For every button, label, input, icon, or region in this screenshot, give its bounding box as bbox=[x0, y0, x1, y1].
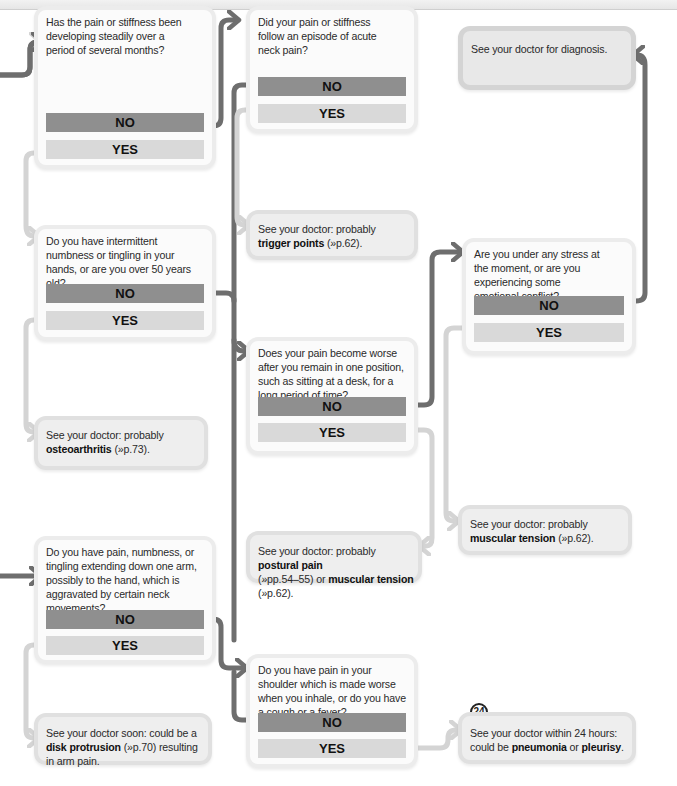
diagnosis-term: disk protrusion bbox=[46, 741, 121, 753]
question-text: Do you have pain, numbness, or tingling … bbox=[46, 545, 202, 615]
outcome-box-osteoarthritis: See your doctor: probably osteoarthritis… bbox=[34, 416, 208, 470]
page-reference[interactable]: (»p.62). bbox=[327, 237, 362, 249]
diagnosis-term: osteoarthritis bbox=[46, 443, 112, 455]
no-button[interactable]: NO bbox=[258, 397, 406, 416]
no-button[interactable]: NO bbox=[258, 713, 406, 732]
diagnosis-term: postural pain bbox=[258, 559, 323, 571]
outcome-box-diagnosis: See your doctor for diagnosis. bbox=[458, 26, 636, 90]
yes-button[interactable]: YES bbox=[258, 739, 406, 758]
question-text: Has the pain or stiffness been developin… bbox=[46, 15, 182, 57]
diagnosis-term: pneumonia bbox=[512, 741, 567, 753]
diagnosis-term: pleurisy bbox=[582, 741, 621, 753]
outcome-text: See your doctor: probably muscular tensi… bbox=[470, 517, 620, 545]
page-reference[interactable]: (»p.73). bbox=[114, 443, 149, 455]
question-text: Are you under any stress at the moment, … bbox=[474, 247, 602, 303]
outcome-joiner: or bbox=[570, 741, 579, 753]
diagnosis-term: muscular tension bbox=[470, 532, 555, 544]
outcome-box-postural-pain: See your doctor: probably postural pain … bbox=[246, 531, 422, 583]
diagnosis-term: trigger points bbox=[258, 237, 324, 249]
outcome-text: See your doctor: probably osteoarthritis… bbox=[46, 428, 196, 456]
question-text: Did your pain or stiffness follow an epi… bbox=[258, 15, 384, 57]
outcome-text: See your doctor for diagnosis. bbox=[471, 42, 623, 56]
no-button[interactable]: NO bbox=[258, 77, 406, 96]
yes-button[interactable]: YES bbox=[46, 311, 204, 330]
outcome-box-disk-protrusion: See your doctor soon: could be a disk pr… bbox=[34, 713, 212, 765]
page-reference[interactable]: (»p.62). bbox=[558, 532, 593, 544]
yes-button[interactable]: YES bbox=[474, 323, 624, 342]
outcome-text: See your doctor: probably trigger points… bbox=[258, 222, 406, 250]
yes-button[interactable]: YES bbox=[46, 140, 204, 159]
yes-button[interactable]: YES bbox=[258, 104, 406, 123]
question-text: Do you have pain in your shoulder which … bbox=[258, 663, 408, 719]
no-button[interactable]: NO bbox=[474, 296, 624, 315]
outcome-box-muscular-tension: See your doctor: probably muscular tensi… bbox=[458, 505, 632, 555]
question-box-q4: Are you under any stress at the moment, … bbox=[462, 238, 636, 355]
page-reference[interactable]: (»p.70) bbox=[124, 741, 157, 753]
outcome-prefix-2: could be bbox=[470, 741, 509, 753]
outcome-prefix: See your doctor: probably bbox=[258, 545, 376, 557]
yes-button[interactable]: YES bbox=[46, 636, 204, 655]
question-box-q3: Do you have intermittent numbness or tin… bbox=[34, 225, 216, 341]
question-text: Does your pain become worse after you re… bbox=[258, 346, 412, 402]
outcome-box-pneumonia: See your doctor within 24 hours: could b… bbox=[458, 712, 636, 764]
yes-button[interactable]: YES bbox=[258, 423, 406, 442]
question-box-q2: Did your pain or stiffness follow an epi… bbox=[246, 6, 418, 133]
outcome-box-trigger-points: See your doctor: probably trigger points… bbox=[246, 210, 418, 260]
outcome-suffix: . bbox=[621, 741, 624, 753]
outcome-text: See your doctor: probably postural pain … bbox=[258, 544, 416, 600]
question-box-q1: Has the pain or stiffness been developin… bbox=[34, 6, 216, 169]
page-reference[interactable]: (»pp.54–55) or bbox=[258, 573, 325, 585]
no-button[interactable]: NO bbox=[46, 610, 204, 629]
no-button[interactable]: NO bbox=[46, 284, 204, 303]
diagnosis-term: muscular tension bbox=[328, 573, 413, 585]
outcome-prefix: See your doctor: probably bbox=[258, 223, 376, 235]
question-text: Do you have intermittent numbness or tin… bbox=[46, 234, 192, 290]
outcome-prefix: See your doctor soon: could be a bbox=[46, 727, 197, 739]
outcome-prefix: See your doctor: probably bbox=[46, 429, 164, 441]
outcome-text: See your doctor soon: could be a disk pr… bbox=[46, 726, 206, 768]
no-button[interactable]: NO bbox=[46, 113, 204, 132]
question-box-q7: Do you have pain in your shoulder which … bbox=[246, 654, 418, 768]
outcome-prefix: See your doctor: probably bbox=[470, 518, 588, 530]
question-box-q6: Do you have pain, numbness, or tingling … bbox=[34, 536, 216, 664]
outcome-prefix: See your doctor within 24 hours: bbox=[470, 727, 617, 739]
page-reference[interactable]: (»p.62). bbox=[258, 587, 293, 599]
question-box-q5: Does your pain become worse after you re… bbox=[246, 337, 418, 455]
outcome-text: See your doctor within 24 hours: could b… bbox=[470, 726, 624, 754]
